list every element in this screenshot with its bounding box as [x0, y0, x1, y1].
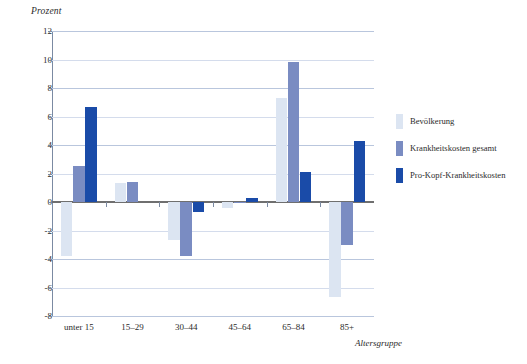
legend: BevölkerungKrankheitskosten gesamtPro-Ko… — [396, 112, 524, 193]
legend-label: Pro-Kopf-Krankheitskosten — [410, 168, 505, 182]
legend-item: Krankheitskosten gesamt — [396, 139, 524, 166]
legend-label: Krankheitskosten gesamt — [410, 141, 497, 155]
x-tick-mark — [159, 202, 160, 207]
x-tick-label: 30–44 — [175, 322, 198, 332]
bar — [127, 182, 139, 202]
bar — [234, 202, 246, 203]
legend-swatch-icon — [396, 114, 403, 129]
legend-label: Bevölkerung — [410, 114, 454, 128]
x-tick-mark — [213, 202, 214, 207]
bar — [73, 166, 85, 202]
gridline — [52, 316, 374, 317]
bar — [329, 202, 341, 297]
y-axis-title: Prozent — [31, 6, 62, 16]
x-tick-label: 85+ — [340, 322, 354, 332]
bar — [288, 62, 300, 202]
x-tick-label: 15–29 — [121, 322, 144, 332]
bars-layer — [52, 31, 374, 316]
bar — [300, 172, 312, 202]
x-tick-mark — [267, 202, 268, 207]
x-tick-label: unter 15 — [64, 322, 94, 332]
x-tick-mark — [320, 202, 321, 207]
bar — [180, 202, 192, 256]
bar — [61, 202, 73, 256]
legend-item: Pro-Kopf-Krankheitskosten — [396, 166, 524, 193]
bar — [168, 202, 180, 240]
x-axis-title: Altersgruppe — [355, 338, 402, 348]
chart-figure: Prozent 121086420-2-4-6-8 unter 1515–293… — [0, 0, 527, 364]
legend-swatch-icon — [396, 168, 403, 183]
bar — [193, 202, 205, 212]
x-tick-label: 65–84 — [282, 322, 305, 332]
bar — [341, 202, 353, 245]
plot-area — [52, 31, 374, 316]
legend-item: Bevölkerung — [396, 112, 524, 139]
bar — [354, 141, 366, 202]
x-tick-label: 45–64 — [229, 322, 252, 332]
bar — [85, 107, 97, 202]
legend-swatch-icon — [396, 141, 403, 156]
bar — [276, 98, 288, 202]
bar — [246, 198, 258, 202]
bar — [222, 202, 234, 208]
x-tick-mark — [106, 202, 107, 207]
bar — [115, 183, 127, 202]
